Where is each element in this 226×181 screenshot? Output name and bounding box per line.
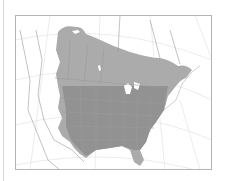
range-map — [0, 0, 226, 181]
